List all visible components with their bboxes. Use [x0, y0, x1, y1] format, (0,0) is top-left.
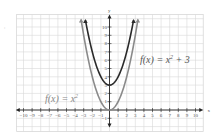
y-axis-label: y [108, 8, 111, 13]
y-tick-label: −1 [102, 116, 108, 121]
x-tick-label: −3 [81, 113, 87, 118]
x-tick-label: −7 [47, 113, 53, 118]
x-tick-label: −6 [55, 113, 61, 118]
x-tick-label: −8 [38, 113, 44, 118]
x-tick-label: −5 [64, 113, 70, 118]
label-base-parabola: f(x) = x2 [45, 93, 78, 105]
y-tick-label: 10 [102, 25, 108, 30]
parabola-graph: xy−10−9−8−7−6−5−4−3−2−112345678910−11234… [0, 0, 217, 139]
x-tick-label: −2 [90, 113, 96, 118]
x-tick-label: −4 [72, 113, 78, 118]
label-shifted-parabola: f(x) = x2 + 3 [140, 54, 190, 66]
x-tick-label: −9 [29, 113, 35, 118]
x-axis-label: x [208, 108, 211, 113]
x-tick-label: 10 [193, 113, 199, 118]
x-tick-label: −10 [20, 113, 28, 118]
